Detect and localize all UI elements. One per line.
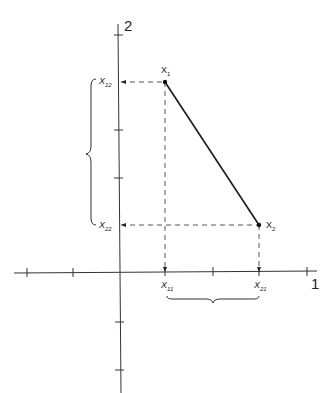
- label-x12: X12: [99, 77, 112, 88]
- horizontal-brace: [167, 296, 259, 303]
- projection-arrowheads: [121, 80, 261, 272]
- label-x11: X11: [161, 281, 173, 292]
- segment-x1-x2: [165, 82, 259, 225]
- label-x21: X21: [254, 281, 267, 292]
- horizontal-axis-label: 1: [311, 276, 319, 291]
- vertical-brace: [86, 79, 96, 225]
- vertical-axis-label: 2: [124, 18, 132, 33]
- projection-lines: [121, 82, 259, 270]
- label-x1: X1: [161, 66, 170, 77]
- label-x22: X22: [99, 221, 112, 232]
- point-x2: [257, 223, 261, 227]
- label-x2: X2: [266, 221, 275, 232]
- point-x1: [163, 80, 167, 84]
- coordinate-diagram: [0, 0, 334, 393]
- vertical-axis: [118, 24, 121, 393]
